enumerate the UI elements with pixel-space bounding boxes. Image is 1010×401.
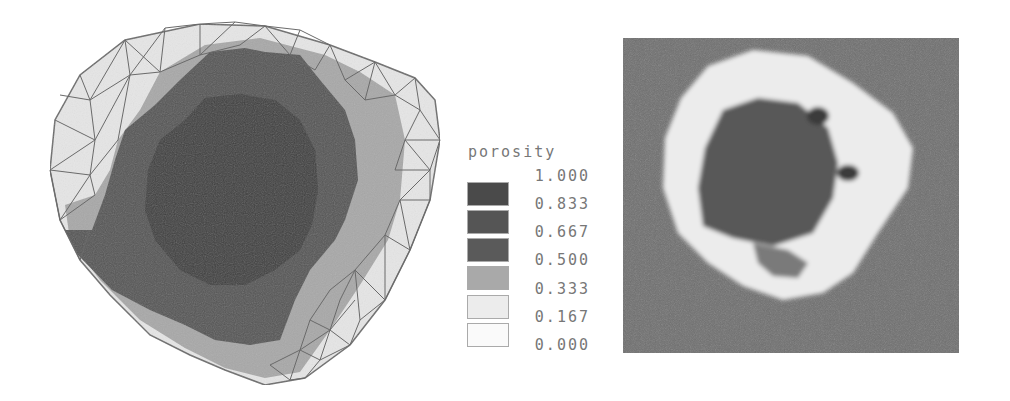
legend-swatch: [467, 323, 509, 347]
ct-scan-image: [623, 38, 959, 353]
porosity-mesh-plot: [0, 0, 470, 401]
legend-label: 0.833: [535, 195, 590, 213]
legend-swatch: [467, 210, 509, 234]
legend-label: 0.667: [535, 223, 590, 241]
legend-swatch: [467, 238, 509, 262]
dark-hole-upper: [807, 107, 829, 125]
legend-label: 0.167: [535, 308, 590, 326]
porosity-legend: porosity 1.000 0.833 0.667 0.500 0.333 0…: [460, 140, 600, 360]
legend-label: 0.500: [535, 251, 590, 269]
legend-label: 0.333: [535, 280, 590, 298]
legend-swatch: [467, 182, 509, 206]
legend-swatch: [467, 295, 509, 319]
legend-swatch: [467, 266, 509, 290]
legend-title: porosity: [468, 143, 556, 161]
dark-hole-right: [837, 165, 859, 181]
legend-label: 1.000: [535, 167, 590, 185]
legend-label: 0.000: [535, 336, 590, 354]
